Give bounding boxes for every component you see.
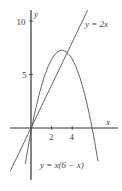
parabola-y-x6-x — [25, 50, 98, 164]
line-y-2x — [10, 10, 87, 171]
line-label: y = 2x — [84, 19, 108, 29]
chart: 2 4 5 10 x y y = 2x y = x(6 − x) — [0, 0, 122, 191]
x-tick-label-4: 4 — [70, 132, 75, 142]
y-axis-label: y — [33, 9, 38, 19]
y-tick-label-10: 10 — [17, 17, 27, 27]
x-axis-label: x — [105, 117, 110, 127]
parabola-label: y = x(6 − x) — [39, 160, 84, 170]
x-tick-label-2: 2 — [49, 132, 54, 142]
y-tick-label-5: 5 — [22, 70, 27, 80]
